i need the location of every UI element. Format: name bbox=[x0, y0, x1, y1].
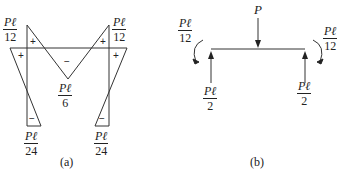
sign-minus-right: − bbox=[99, 114, 105, 124]
caption-a: (a) bbox=[60, 155, 73, 170]
right-moment-arc bbox=[313, 40, 322, 62]
left-moment-arrowhead bbox=[193, 59, 199, 64]
label-top-left: Pℓ 12 bbox=[3, 16, 17, 43]
left-reaction-arrowhead bbox=[208, 51, 214, 59]
sign-plus-bottom-left: + bbox=[18, 51, 24, 61]
moment-diagram-a bbox=[10, 25, 127, 126]
right-reaction-arrowhead bbox=[302, 51, 308, 59]
label-bottom-left: Pℓ 24 bbox=[24, 130, 38, 157]
left-moment-arc bbox=[194, 40, 203, 62]
sign-plus-bottom-right: + bbox=[113, 51, 119, 61]
right-moment-arrowhead bbox=[317, 59, 323, 64]
diagram-canvas bbox=[0, 0, 342, 178]
caption-b: (b) bbox=[250, 155, 264, 170]
load-arrowhead bbox=[255, 40, 261, 48]
label-bottom-right: Pℓ 24 bbox=[94, 130, 108, 157]
label-top-right: Pℓ 12 bbox=[112, 16, 126, 43]
m-shape-line bbox=[27, 25, 109, 79]
free-body-diagram-b bbox=[193, 18, 323, 83]
sign-plus-top-right: + bbox=[100, 37, 106, 47]
left-triangle bbox=[10, 48, 41, 126]
sign-minus-left: − bbox=[29, 114, 35, 124]
label-middle: Pℓ 6 bbox=[58, 82, 72, 109]
sign-plus-top-left: + bbox=[30, 37, 36, 47]
moment-right-label: Pℓ 12 bbox=[323, 25, 337, 52]
reaction-right-label: Pℓ 2 bbox=[297, 80, 311, 107]
reaction-left-label: Pℓ 2 bbox=[203, 85, 217, 112]
sign-minus-middle: − bbox=[64, 57, 70, 67]
load-label: P bbox=[254, 2, 262, 18]
moment-left-label: Pℓ 12 bbox=[178, 17, 192, 44]
